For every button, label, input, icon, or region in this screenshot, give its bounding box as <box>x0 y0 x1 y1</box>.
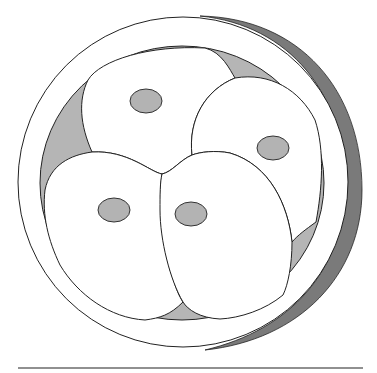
nucleus-left <box>98 198 130 222</box>
embryo-diagram <box>0 0 377 373</box>
nucleus-top <box>130 89 162 113</box>
nucleus-center <box>175 202 207 226</box>
nucleus-right <box>257 136 289 160</box>
